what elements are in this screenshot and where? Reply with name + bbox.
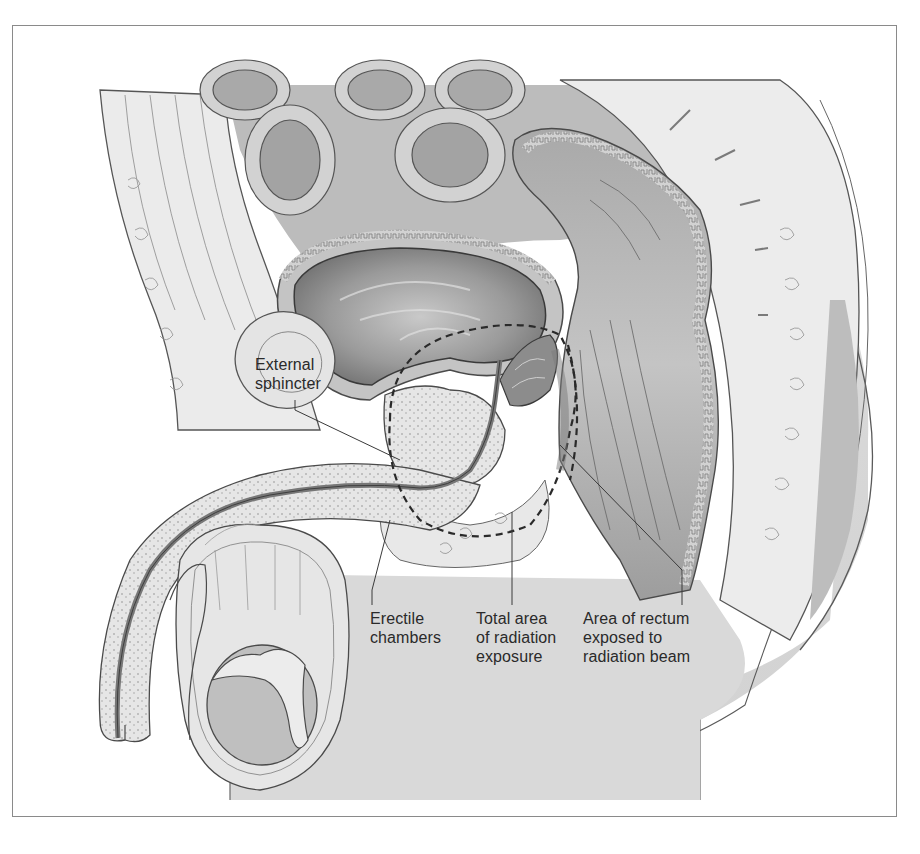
label-total-radiation-area: Total area of radiation exposure <box>476 609 556 666</box>
label-line: Area of rectum <box>583 609 690 628</box>
label-line: exposure <box>476 647 556 666</box>
pelvis-illustration <box>0 0 920 854</box>
label-erectile-chambers: Erectile chambers <box>370 609 441 647</box>
label-external-sphincter: External sphincter <box>255 355 321 393</box>
label-line: Erectile <box>370 609 441 628</box>
label-rectum-exposed-area: Area of rectum exposed to radiation beam <box>583 609 690 666</box>
label-line: sphincter <box>255 374 321 393</box>
label-line: radiation beam <box>583 647 690 666</box>
label-line: External <box>255 355 321 374</box>
label-line: of radiation <box>476 628 556 647</box>
label-line: exposed to <box>583 628 690 647</box>
label-line: Total area <box>476 609 556 628</box>
label-line: chambers <box>370 628 441 647</box>
